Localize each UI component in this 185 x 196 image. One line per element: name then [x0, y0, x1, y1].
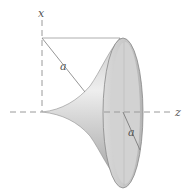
diagram-canvas: x z a a	[0, 0, 185, 196]
tangent-length-label: a	[60, 60, 67, 73]
z-axis-label: z	[174, 106, 181, 119]
x-axis-label: x	[38, 7, 45, 20]
tractrix-diagram: x z a a	[0, 0, 185, 196]
rim-radius-label: a	[128, 126, 135, 139]
rim-inner	[110, 42, 140, 184]
